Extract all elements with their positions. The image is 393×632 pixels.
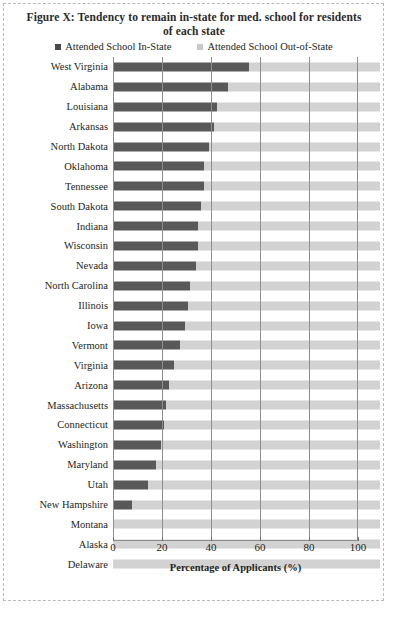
chart-figure: Figure X: Tendency to remain in-state fo… bbox=[8, 6, 380, 596]
bar-rows: West VirginiaAlabamaLouisianaArkansasNor… bbox=[8, 57, 380, 541]
stacked-bar bbox=[113, 420, 380, 429]
bar-track bbox=[113, 455, 380, 475]
table-row: Indiana bbox=[8, 216, 380, 236]
state-label: Utah bbox=[8, 479, 113, 490]
table-row: Illinois bbox=[8, 296, 380, 316]
plot-area: West VirginiaAlabamaLouisianaArkansasNor… bbox=[8, 57, 380, 577]
bar-track bbox=[113, 296, 380, 316]
x-tick-label: 40 bbox=[206, 541, 217, 553]
bar-segment-out-of-state bbox=[209, 142, 380, 151]
state-label: Tennessee bbox=[8, 181, 113, 192]
table-row: Iowa bbox=[8, 316, 380, 336]
x-axis-title: Percentage of Applicants (%) bbox=[113, 562, 358, 573]
bar-track bbox=[113, 475, 380, 495]
stacked-bar bbox=[113, 222, 380, 231]
bar-track bbox=[113, 435, 380, 455]
bar-segment-out-of-state bbox=[228, 82, 380, 91]
bar-segment-in-state bbox=[113, 162, 204, 171]
legend-label-out-of-state: Attended School Out-of-State bbox=[207, 41, 332, 52]
bar-segment-in-state bbox=[113, 440, 161, 449]
stacked-bar bbox=[113, 480, 380, 489]
bar-segment-out-of-state bbox=[185, 321, 380, 330]
x-axis-tick-labels: 020406080100 bbox=[113, 541, 358, 555]
state-label: Delaware bbox=[8, 559, 113, 570]
x-tick-label: 0 bbox=[110, 541, 116, 553]
x-tick-label: 60 bbox=[255, 541, 266, 553]
bar-segment-in-state bbox=[113, 361, 174, 370]
bar-track bbox=[113, 77, 380, 97]
state-label: Maryland bbox=[8, 459, 113, 470]
bar-segment-in-state bbox=[113, 182, 204, 191]
bar-segment-in-state bbox=[113, 500, 132, 509]
x-tick-label: 20 bbox=[157, 541, 168, 553]
chart-title: Figure X: Tendency to remain in-state fo… bbox=[8, 6, 380, 38]
stacked-bar bbox=[113, 381, 380, 390]
bar-track bbox=[113, 137, 380, 157]
stacked-bar bbox=[113, 301, 380, 310]
bar-segment-out-of-state bbox=[196, 261, 380, 270]
bar-segment-in-state bbox=[113, 82, 228, 91]
bar-segment-in-state bbox=[113, 480, 148, 489]
stacked-bar bbox=[113, 62, 380, 71]
state-label: Iowa bbox=[8, 320, 113, 331]
bar-segment-in-state bbox=[113, 202, 201, 211]
bar-track bbox=[113, 276, 380, 296]
bar-segment-out-of-state bbox=[204, 162, 380, 171]
state-label: Wisconsin bbox=[8, 240, 113, 251]
table-row: Oklahoma bbox=[8, 156, 380, 176]
table-row: Louisiana bbox=[8, 97, 380, 117]
bar-segment-in-state bbox=[113, 102, 217, 111]
state-label: Vermont bbox=[8, 340, 113, 351]
state-label: Louisiana bbox=[8, 101, 113, 112]
state-label: Arizona bbox=[8, 380, 113, 391]
legend-item-in-state: Attended School In-State bbox=[55, 41, 171, 52]
legend-swatch-out-of-state-icon bbox=[197, 44, 203, 50]
stacked-bar bbox=[113, 122, 380, 131]
bar-segment-out-of-state bbox=[201, 202, 380, 211]
table-row: New Hampshire bbox=[8, 495, 380, 515]
stacked-bar bbox=[113, 202, 380, 211]
state-label: Alabama bbox=[8, 81, 113, 92]
bar-track bbox=[113, 514, 380, 534]
x-tick-label: 80 bbox=[304, 541, 315, 553]
bar-segment-in-state bbox=[113, 222, 198, 231]
stacked-bar bbox=[113, 162, 380, 171]
legend-item-out-of-state: Attended School Out-of-State bbox=[197, 41, 332, 52]
table-row: Vermont bbox=[8, 335, 380, 355]
table-row: Arkansas bbox=[8, 117, 380, 137]
bar-track bbox=[113, 156, 380, 176]
stacked-bar bbox=[113, 102, 380, 111]
chart-legend: Attended School In-State Attended School… bbox=[8, 41, 380, 52]
state-label: Arkansas bbox=[8, 121, 113, 132]
bar-segment-out-of-state bbox=[169, 381, 380, 390]
stacked-bar bbox=[113, 82, 380, 91]
table-row: Wisconsin bbox=[8, 236, 380, 256]
table-row: Tennessee bbox=[8, 176, 380, 196]
bar-track bbox=[113, 216, 380, 236]
bar-segment-out-of-state bbox=[214, 122, 380, 131]
bar-segment-in-state bbox=[113, 142, 209, 151]
state-label: Washington bbox=[8, 439, 113, 450]
bar-segment-in-state bbox=[113, 401, 166, 410]
stacked-bar bbox=[113, 142, 380, 151]
state-label: North Dakota bbox=[8, 141, 113, 152]
bar-track bbox=[113, 495, 380, 515]
state-label: Alaska bbox=[8, 539, 113, 550]
table-row: North Carolina bbox=[8, 276, 380, 296]
stacked-bar bbox=[113, 261, 380, 270]
state-label: South Dakota bbox=[8, 201, 113, 212]
bar-segment-out-of-state bbox=[113, 520, 380, 529]
stacked-bar bbox=[113, 520, 380, 529]
bar-segment-in-state bbox=[113, 381, 169, 390]
bar-track bbox=[113, 97, 380, 117]
table-row: Virginia bbox=[8, 355, 380, 375]
table-row: Utah bbox=[8, 475, 380, 495]
stacked-bar bbox=[113, 460, 380, 469]
bar-segment-in-state bbox=[113, 62, 249, 71]
table-row: Massachusetts bbox=[8, 395, 380, 415]
table-row: Alabama bbox=[8, 77, 380, 97]
bar-track bbox=[113, 176, 380, 196]
x-tick-label: 100 bbox=[350, 541, 367, 553]
bar-segment-out-of-state bbox=[164, 420, 380, 429]
bar-segment-in-state bbox=[113, 460, 156, 469]
